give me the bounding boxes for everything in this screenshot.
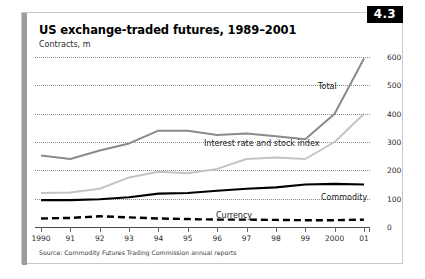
y-axis-label-0: 0 [387,223,392,232]
y-axis-label-300: 300 [387,138,401,147]
x-tick-01 [364,227,365,232]
x-axis-label-93: 93 [124,234,134,243]
series-label-currency: Currency [216,211,252,220]
x-tick-99 [305,227,306,232]
x-axis-ticks [35,227,370,232]
y-axis-label-500: 500 [387,81,401,90]
x-axis-label-2000: 2000 [325,234,344,243]
x-axis-label-94: 94 [154,234,164,243]
x-tick-95 [188,227,189,232]
y-axis-label-200: 200 [387,166,401,175]
x-axis-label-01: 01 [359,234,369,243]
x-tick-97 [247,227,248,232]
x-axis-label-99: 99 [300,234,310,243]
x-axis-label-97: 97 [242,234,252,243]
chart-subtitle: Contracts, m [39,40,90,49]
y-axis-label-400: 400 [387,109,401,118]
x-axis-label-98: 98 [271,234,281,243]
x-tick-92 [100,227,101,232]
x-tick-end [369,227,370,232]
x-axis-label-95: 95 [183,234,193,243]
y-axis-label-600: 600 [387,53,401,62]
series-line-currency [41,216,364,220]
x-tick-96 [217,227,218,232]
chart-figure: 4.3 US exchange-traded futures, 1989–200… [21,12,403,264]
x-tick-93 [129,227,130,232]
x-axis-label-91: 91 [66,234,76,243]
x-tick-2000 [335,227,336,232]
series-label-interest-rate-and-stock-index: Interest rate and stock index [204,139,319,148]
figure-number-badge: 4.3 [367,6,403,23]
x-tick-91 [70,227,71,232]
x-axis-label-92: 92 [95,234,105,243]
chart-source: Source: Commodity Futures Trading Commis… [39,249,236,256]
y-axis-label-100: 100 [387,194,401,203]
x-axis-label-96: 96 [212,234,222,243]
series-line-commodity [41,184,364,200]
x-tick-98 [276,227,277,232]
x-tick-94 [158,227,159,232]
chart-title: US exchange-traded futures, 1989–2001 [39,23,296,37]
x-axis-label-1990: 1990 [31,234,50,243]
series-label-commodity: Commodity [321,193,367,202]
x-tick-1990 [41,227,42,232]
series-label-total: Total [318,82,337,91]
panel-accent-bar [22,13,27,265]
